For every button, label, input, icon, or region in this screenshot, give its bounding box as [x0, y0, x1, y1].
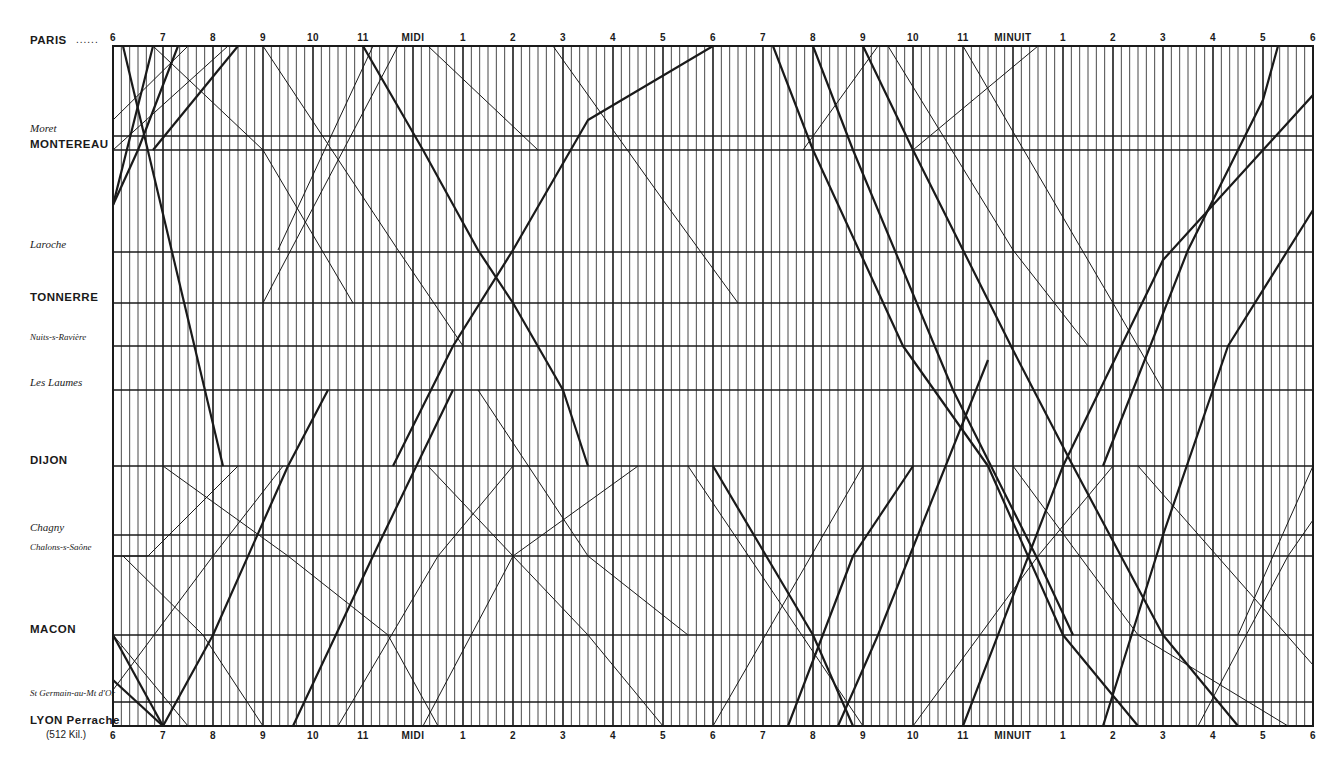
hour-tick-label-bottom: 5	[1260, 730, 1266, 741]
hour-tick-label-top: 6	[710, 32, 716, 43]
hour-tick-label-top: 1	[1060, 32, 1066, 43]
train-line-down	[363, 46, 588, 466]
train-line-up	[113, 466, 283, 690]
station-label: Nuits-s-Ravière	[30, 332, 86, 342]
hour-tick-label-top: 2	[1110, 32, 1116, 43]
hour-tick-label-bottom: MIDI	[401, 730, 424, 741]
hour-tick-label-top: MIDI	[401, 32, 424, 43]
hour-tick-label-bottom: 11	[957, 730, 969, 741]
hour-tick-label-bottom: 8	[810, 730, 816, 741]
train-line-down	[713, 466, 853, 726]
hour-tick-label-bottom: 6	[710, 730, 716, 741]
hour-gridlines	[113, 46, 1313, 726]
hour-tick-label-bottom: 10	[907, 730, 919, 741]
train-line-up	[338, 466, 513, 726]
train-line-down	[863, 46, 1238, 726]
hour-tick-label-bottom: 11	[357, 730, 369, 741]
station-label: Les Laumes	[30, 376, 82, 388]
station-label: Chalons-s-Saône	[30, 542, 92, 552]
hour-tick-label-top: 7	[160, 32, 166, 43]
train-line-down	[813, 46, 1073, 635]
train-line-down	[553, 46, 738, 303]
hour-tick-label-top: 7	[760, 32, 766, 43]
station-label: TONNERRE	[30, 291, 98, 303]
hour-tick-label-top: 4	[610, 32, 616, 43]
train-line-down	[113, 46, 228, 150]
hour-tick-label-bottom: 6	[110, 730, 116, 741]
hour-tick-label-bottom: 9	[260, 730, 266, 741]
train-line-up	[1103, 210, 1313, 726]
hour-tick-label-top: 11	[957, 32, 969, 43]
station-label: DIJON	[30, 454, 68, 466]
train-line-up	[913, 46, 1038, 150]
hour-tick-label-top: 5	[660, 32, 666, 43]
train-line-up	[113, 466, 238, 556]
hour-tick-label-bottom: 8	[210, 730, 216, 741]
hour-tick-label-bottom: 2	[1110, 730, 1116, 741]
train-line-up	[153, 46, 238, 150]
train-line-up	[803, 46, 878, 150]
hour-tick-label-top: 6	[1310, 32, 1316, 43]
hour-tick-label-top: MINUIT	[994, 32, 1031, 43]
hour-tick-label-top: 9	[860, 32, 866, 43]
hour-tick-label-top: 1	[460, 32, 466, 43]
hour-tick-label-bottom: 7	[160, 730, 166, 741]
train-line-up	[1238, 466, 1313, 635]
train-line-up	[1103, 46, 1278, 466]
hour-tick-label-top: 8	[810, 32, 816, 43]
hour-tick-label-top: 10	[307, 32, 319, 43]
station-label: MACON	[30, 623, 76, 635]
hour-tick-label-top: 10	[907, 32, 919, 43]
hour-tick-label-bottom: 7	[760, 730, 766, 741]
train-schedule-chart	[0, 0, 1333, 776]
station-label: Laroche	[30, 238, 66, 250]
hour-tick-label-bottom: 2	[510, 730, 516, 741]
station-label: PARIS	[30, 34, 67, 46]
hour-tick-label-top: 3	[1160, 32, 1166, 43]
hour-tick-label-top: 2	[510, 32, 516, 43]
hour-tick-label-top: 5	[1260, 32, 1266, 43]
train-line-up	[1198, 520, 1313, 726]
train-line-up	[278, 46, 373, 250]
hour-tick-label-bottom: 4	[610, 730, 616, 741]
station-label: Chagny	[30, 521, 64, 533]
hour-tick-label-bottom: 3	[1160, 730, 1166, 741]
hour-tick-label-top: 3	[560, 32, 566, 43]
hour-tick-label-bottom: 1	[1060, 730, 1066, 741]
station-label: Moret	[30, 122, 56, 134]
hour-tick-label-bottom: 6	[1310, 730, 1316, 741]
train-line-down	[113, 635, 188, 726]
train-line-up	[293, 390, 453, 726]
hour-tick-label-top: 6	[110, 32, 116, 43]
station-label: LYON Perrache	[30, 714, 120, 726]
station-distance-label: (512 Kil.)	[46, 729, 86, 740]
train-line-up	[113, 46, 178, 205]
hour-tick-label-bottom: 1	[460, 730, 466, 741]
station-label: MONTEREAU	[30, 138, 109, 150]
hour-tick-label-bottom: 10	[307, 730, 319, 741]
train-line-up	[393, 46, 713, 466]
train-line-down	[123, 556, 263, 726]
hour-tick-label-bottom: MINUIT	[994, 730, 1031, 741]
hour-tick-label-bottom: 5	[660, 730, 666, 741]
train-line-up	[423, 466, 638, 726]
hour-tick-label-top: 4	[1210, 32, 1216, 43]
train-line-down	[153, 46, 353, 303]
hour-tick-label-bottom: 4	[1210, 730, 1216, 741]
hour-tick-label-top: 11	[357, 32, 369, 43]
hour-tick-label-top: 9	[260, 32, 266, 43]
hour-tick-label-bottom: 9	[860, 730, 866, 741]
train-line-down	[478, 390, 688, 635]
hour-tick-label-bottom: 3	[560, 730, 566, 741]
station-label: St Germain-au-Mt d'Or	[30, 688, 115, 698]
hour-tick-label-top: 8	[210, 32, 216, 43]
station-leader-dots: ......	[76, 34, 99, 45]
